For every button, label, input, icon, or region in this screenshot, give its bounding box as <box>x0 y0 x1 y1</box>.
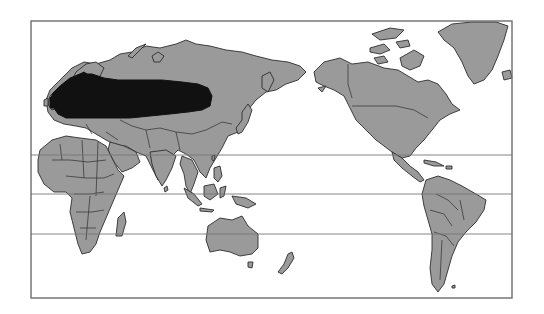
cuba <box>424 160 444 166</box>
sulawesi <box>220 186 226 198</box>
falkland-islands <box>452 285 455 288</box>
new-zealand <box>278 252 294 274</box>
arctic-archipelago-2 <box>372 28 404 40</box>
madagascar <box>116 212 126 236</box>
tasmania <box>248 262 253 268</box>
new-guinea <box>232 196 256 208</box>
taiwan <box>212 155 215 161</box>
baffin-island <box>400 50 424 70</box>
borneo <box>204 184 218 200</box>
alaska-peninsula <box>318 86 326 92</box>
north-america <box>314 58 460 158</box>
australia <box>206 216 258 256</box>
arctic-archipelago-3 <box>396 40 410 48</box>
java <box>200 208 214 212</box>
world-map <box>0 0 544 314</box>
sumatra <box>184 188 202 206</box>
iceland <box>502 70 512 80</box>
arctic-archipelago-1 <box>370 44 390 54</box>
philippines <box>214 166 222 182</box>
greenland <box>438 22 508 84</box>
sri-lanka <box>164 186 168 192</box>
hispaniola <box>446 166 452 169</box>
arctic-archipelago-4 <box>374 56 388 64</box>
ireland <box>44 98 48 106</box>
